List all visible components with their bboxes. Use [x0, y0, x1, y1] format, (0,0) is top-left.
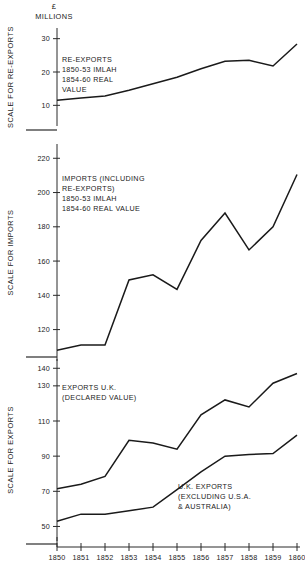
y-tick-label: 110: [38, 417, 50, 426]
y-tick-label: 180: [37, 222, 50, 231]
y-axis-title: SCALE FOR EXPORTS: [6, 406, 15, 494]
annotation-exports-excluding: U.K. EXPORTS: [178, 482, 232, 491]
y-tick-label: 120: [37, 325, 50, 334]
x-tick-label: 1859: [265, 553, 282, 562]
x-tick-label: 1857: [217, 553, 234, 562]
x-tick-label: 1851: [73, 553, 90, 562]
x-tick-label: 1850: [49, 553, 66, 562]
annotation-exports-declared: (DECLARED VALUE): [62, 393, 137, 402]
x-tick-label: 1855: [169, 553, 186, 562]
annotation-reexports: 1850-53 IMLAH: [62, 65, 117, 74]
panel-exports: 507090110130140SCALE FOR EXPORTSEXPORTS …: [6, 359, 297, 541]
y-tick-label: 160: [37, 257, 50, 266]
y-tick-label: 70: [42, 487, 50, 496]
unit-text: MILLIONS: [35, 12, 73, 21]
trade-statistics-chart: £ MILLIONS 102030SCALE FOR RE-EXPORTSRE-…: [0, 0, 305, 566]
annotation-reexports: RE-EXPORTS: [62, 55, 112, 64]
x-tick-label: 1853: [121, 553, 138, 562]
unit-header: £ MILLIONS: [35, 2, 73, 21]
x-tick-label: 1860: [289, 553, 305, 562]
y-tick-label: 220: [37, 154, 50, 163]
annotation-exports-declared: EXPORTS U.K.: [62, 383, 116, 392]
x-tick-label: 1854: [145, 553, 162, 562]
y-tick-label: 140: [37, 364, 50, 373]
annotation-exports-excluding: & AUSTRALIA): [178, 502, 231, 511]
annotation-exports-excluding: (EXCLUDING U.S.A.: [178, 492, 251, 501]
x-tick-label: 1858: [241, 553, 258, 562]
y-tick-label: 30: [42, 34, 50, 43]
y-tick-label: 140: [37, 291, 50, 300]
x-tick-label: 1856: [193, 553, 210, 562]
y-axis-title: SCALE FOR RE-EXPORTS: [6, 26, 15, 128]
annotation-imports: 1850-53 IMLAH: [62, 194, 117, 203]
panel-imports: 120140160180200220SCALE FOR IMPORTSIMPOR…: [6, 144, 297, 361]
annotation-imports: 1854-60 REAL VALUE: [62, 204, 140, 213]
annotation-reexports: VALUE: [62, 85, 87, 94]
y-tick-label: 20: [42, 68, 50, 77]
panel-reexports: 102030SCALE FOR RE-EXPORTSRE-EXPORTS1850…: [6, 26, 297, 128]
annotation-imports: RE-EXPORTS): [62, 184, 115, 193]
y-tick-label: 200: [37, 188, 50, 197]
y-tick-label: 50: [42, 522, 50, 531]
annotation-imports: IMPORTS (INCLUDING: [62, 174, 145, 183]
y-tick-label: 10: [42, 101, 50, 110]
y-tick-label: 130: [37, 381, 50, 390]
x-tick-label: 1852: [97, 553, 114, 562]
unit-symbol: £: [52, 2, 57, 11]
annotation-reexports: 1854-60 REAL: [62, 75, 113, 84]
y-tick-label: 90: [42, 452, 50, 461]
chart-canvas: £ MILLIONS 102030SCALE FOR RE-EXPORTSRE-…: [0, 0, 305, 566]
y-axis-title: SCALE FOR IMPORTS: [6, 210, 15, 296]
